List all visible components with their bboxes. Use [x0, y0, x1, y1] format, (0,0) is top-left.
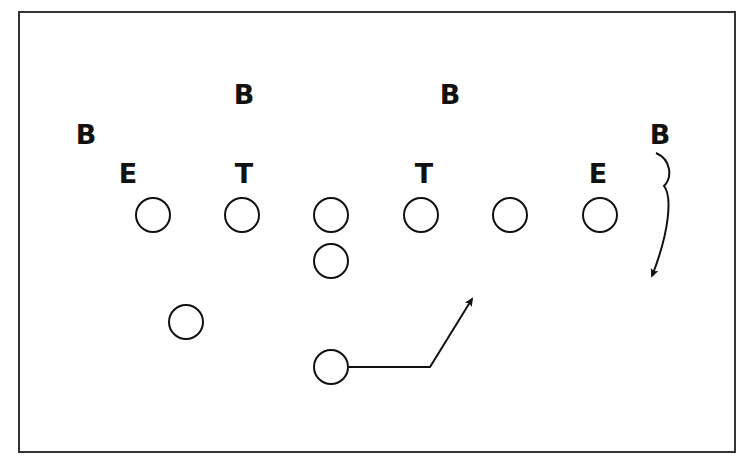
offense-halfback-circle — [169, 305, 203, 339]
field-frame — [19, 12, 735, 452]
offense-lineman-1-circle — [136, 198, 170, 232]
offense-lineman-2-circle — [225, 198, 259, 232]
defender-back-right: B — [650, 119, 671, 150]
offense-lineman-5-circle — [493, 198, 527, 232]
offense-ball-carrier-circle — [314, 350, 348, 384]
defender-end-right: E — [589, 158, 607, 189]
offense-lineman-6-circle — [583, 198, 617, 232]
offense-quarterback-circle — [314, 244, 348, 278]
defender-end-left: E — [119, 158, 137, 189]
defender-linebacker-right: B — [440, 79, 461, 110]
defender-tackle-right: T — [415, 158, 434, 189]
defender-tackle-left: T — [235, 158, 254, 189]
defender-linebacker-left: B — [234, 79, 255, 110]
defender-back-left: B — [76, 119, 97, 150]
play-diagram: BBBBETTE — [0, 0, 749, 466]
offense-lineman-4-circle — [404, 198, 438, 232]
offense-center-circle — [314, 198, 348, 232]
